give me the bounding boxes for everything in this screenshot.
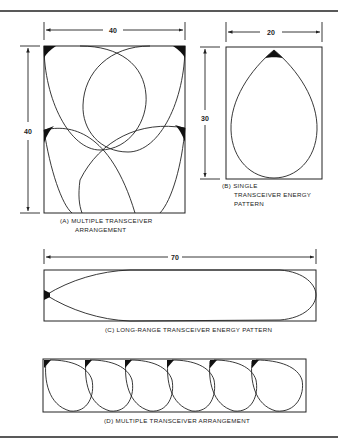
figure-c: 70 (C) LONG-RANGE TRANSCEIVER ENERGY PAT… xyxy=(44,249,316,333)
figure-d: (D) MULTIPLE TRANSCEIVER ARRANGEMENT xyxy=(43,359,306,424)
figure-b-caption-line2: TRANSCEIVER ENERGY xyxy=(234,191,311,198)
figure-b-caption-line1: (B) SINGLE xyxy=(222,182,258,189)
figure-d-lobes xyxy=(46,360,303,411)
diagram-canvas: 40 40 (A) MULTIPLE TRANSCEIVER ARRANGEME… xyxy=(0,0,338,447)
figure-a-caption-line1: (A) MULTIPLE TRANSCEIVER xyxy=(60,217,153,224)
figure-b: 20 30 (B) SINGLE TRANSCEIVER ENERGY PATT… xyxy=(200,22,322,207)
figure-a-caption-line2: ARRANGEMENT xyxy=(75,226,126,233)
figure-d-caption: (D) MULTIPLE TRANSCEIVER ARRANGEMENT xyxy=(104,417,250,424)
figure-a-width-label: 40 xyxy=(109,27,117,34)
figure-b-height-label: 30 xyxy=(201,115,209,122)
figure-c-width-label: 70 xyxy=(171,254,179,261)
figure-b-caption-line3: PATTERN xyxy=(234,200,264,207)
figure-a-height-label: 40 xyxy=(24,128,32,135)
figure-b-width-label: 20 xyxy=(267,29,275,36)
figure-c-caption: (C) LONG-RANGE TRANSCEIVER ENERGY PATTER… xyxy=(105,326,272,333)
figure-a: 40 40 (A) MULTIPLE TRANSCEIVER ARRANGEME… xyxy=(20,22,185,233)
